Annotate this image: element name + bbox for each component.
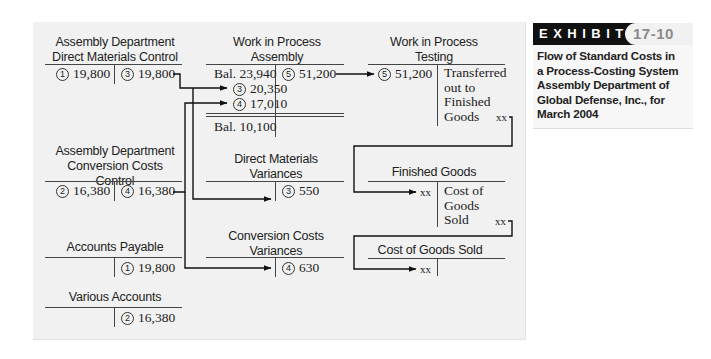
arrow-cc-to-variance — [185, 192, 271, 268]
exhibit-label: EXHIBIT — [539, 26, 629, 41]
exhibit-number: 17-10 — [625, 23, 693, 45]
caption-line: a Process-Costing System — [537, 64, 690, 79]
arrow-dm-to-wip — [173, 74, 227, 88]
arrow-cc-to-wip — [173, 103, 227, 192]
arrow-fg-to-cogs — [354, 221, 512, 269]
caption-line: Flow of Standard Costs in — [537, 49, 690, 64]
caption-line: March 2004 — [537, 107, 690, 122]
exhibit-caption: Flow of Standard Costs in a Process-Cost… — [533, 45, 693, 129]
caption-line: Assembly Department of — [537, 78, 690, 93]
exhibit-header-bar: EXHIBIT 17-10 — [533, 23, 693, 45]
arrow-testing-to-fg — [354, 117, 512, 192]
exhibit-caption-box: EXHIBIT 17-10 Flow of Standard Costs in … — [533, 23, 693, 129]
caption-line: Global Defense, Inc., for — [537, 93, 690, 108]
arrow-dm-to-variance — [193, 88, 271, 199]
